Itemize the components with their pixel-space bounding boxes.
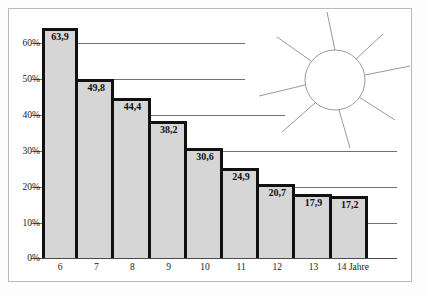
sun-ray-e [365, 66, 410, 75]
bar-value-age-8: 44,4 [114, 101, 150, 112]
x-axis-label-12: 12 [259, 262, 295, 273]
bar-age-10 [187, 148, 223, 258]
bar-value-age-10: 30,6 [187, 151, 223, 162]
bar-value-age-7: 49,8 [78, 82, 114, 93]
bar-value-age-9: 38,2 [151, 124, 187, 135]
sun-ray-nw [277, 37, 311, 61]
y-axis-label-40: 40% [23, 110, 40, 120]
bar-age-6 [42, 28, 78, 258]
bar-value-age-11: 24,9 [223, 171, 259, 182]
bar-age-7 [78, 79, 114, 258]
bar-value-age-13: 17,9 [295, 197, 331, 208]
sun-ray-w [259, 85, 305, 96]
y-axis-label-0: 0% [27, 253, 40, 263]
x-axis-line [31, 258, 397, 259]
x-axis-label-9: 9 [151, 262, 187, 273]
x-axis-label-11: 11 [223, 262, 259, 273]
sun-ray-sw [282, 103, 315, 132]
sun-illustration [255, 8, 415, 148]
plot-area: 60% 50% 40% 30% 20% 10% 0% 63,9 49,8 44,… [0, 0, 426, 295]
sun-ray-ne [356, 34, 383, 59]
y-axis-label-30: 30% [23, 146, 40, 156]
chart-image: 60% 50% 40% 30% 20% 10% 0% 63,9 49,8 44,… [0, 0, 426, 295]
sun-ray-s [339, 110, 350, 148]
bar-value-age-6: 63,9 [42, 31, 78, 42]
bar-value-age-14: 17,2 [332, 199, 368, 210]
x-axis-label-10: 10 [187, 262, 223, 273]
sun-ray-se [359, 97, 395, 120]
x-axis-label-6: 6 [42, 262, 78, 273]
x-axis-label-14: 14 Jahre [328, 262, 378, 273]
bar-age-8 [114, 98, 150, 258]
sun-ray-n [327, 12, 335, 50]
y-axis-label-10: 10% [23, 218, 40, 228]
x-axis-label-13: 13 [295, 262, 331, 273]
y-axis-label-60: 60% [23, 38, 40, 48]
bar-value-age-12: 20,7 [259, 187, 295, 198]
x-axis-label-8: 8 [114, 262, 150, 273]
x-axis-label-7: 7 [78, 262, 114, 273]
bar-age-9 [151, 121, 187, 259]
y-axis-label-20: 20% [23, 182, 40, 192]
y-axis-label-50: 50% [23, 74, 40, 84]
